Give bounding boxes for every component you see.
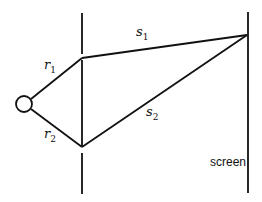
label-r1: r1 [44,57,56,75]
path-s1 [82,35,247,58]
double-slit-diagram: r1 r2 s1 s2 screen [0,0,262,202]
path-r1 [31,58,82,99]
diagram-lines [0,0,262,202]
path-r2 [31,109,82,147]
label-r2: r2 [44,126,56,144]
label-screen: screen [210,155,246,169]
label-s2: s2 [146,104,158,122]
path-s2 [82,35,247,147]
label-s1: s1 [136,24,148,42]
source-circle [16,96,32,112]
